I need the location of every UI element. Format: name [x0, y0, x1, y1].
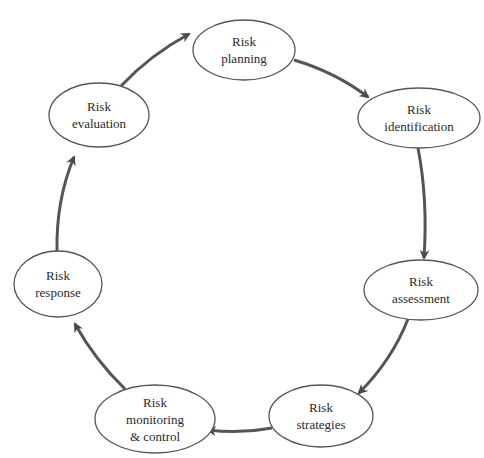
node-label-line: Risk: [384, 101, 453, 118]
risk-management-cycle-diagram: Risk planning Risk identification Risk a…: [0, 0, 484, 458]
node-label-line: planning: [221, 50, 267, 67]
node-label-line: assessment: [392, 290, 450, 307]
edge-planning-to-identification: [294, 60, 368, 97]
edge-identification-to-assessment: [418, 148, 425, 258]
node-label-line: Risk: [126, 394, 184, 411]
edge-strategies-to-monitoring: [208, 428, 272, 432]
nodes: [14, 20, 480, 453]
edge-monitoring-to-response: [75, 324, 125, 389]
node-label-line: monitoring: [126, 411, 184, 428]
node-label-line: response: [35, 284, 81, 301]
node-label-line: strategies: [296, 416, 345, 433]
edge-assessment-to-strategies: [359, 319, 408, 393]
node-risk-planning: Risk planning: [221, 33, 267, 67]
node-risk-strategies: Risk strategies: [296, 399, 345, 433]
node-risk-identification: Risk identification: [384, 101, 453, 135]
node-risk-response: Risk response: [35, 267, 81, 301]
node-label-line: Risk: [72, 98, 126, 115]
node-label-line: Risk: [296, 399, 345, 416]
diagram-graphics: [0, 0, 484, 458]
node-label-line: Risk: [392, 273, 450, 290]
node-label-line: evaluation: [72, 115, 126, 132]
node-risk-monitoring-control: Risk monitoring & control: [126, 394, 184, 445]
edge-response-to-evaluation: [57, 157, 74, 251]
node-risk-evaluation: Risk evaluation: [72, 98, 126, 132]
node-label-line: identification: [384, 118, 453, 135]
node-risk-assessment: Risk assessment: [392, 273, 450, 307]
node-label-line: & control: [126, 428, 184, 445]
node-label-line: Risk: [221, 33, 267, 50]
edge-evaluation-to-planning: [121, 34, 189, 86]
node-label-line: Risk: [35, 267, 81, 284]
